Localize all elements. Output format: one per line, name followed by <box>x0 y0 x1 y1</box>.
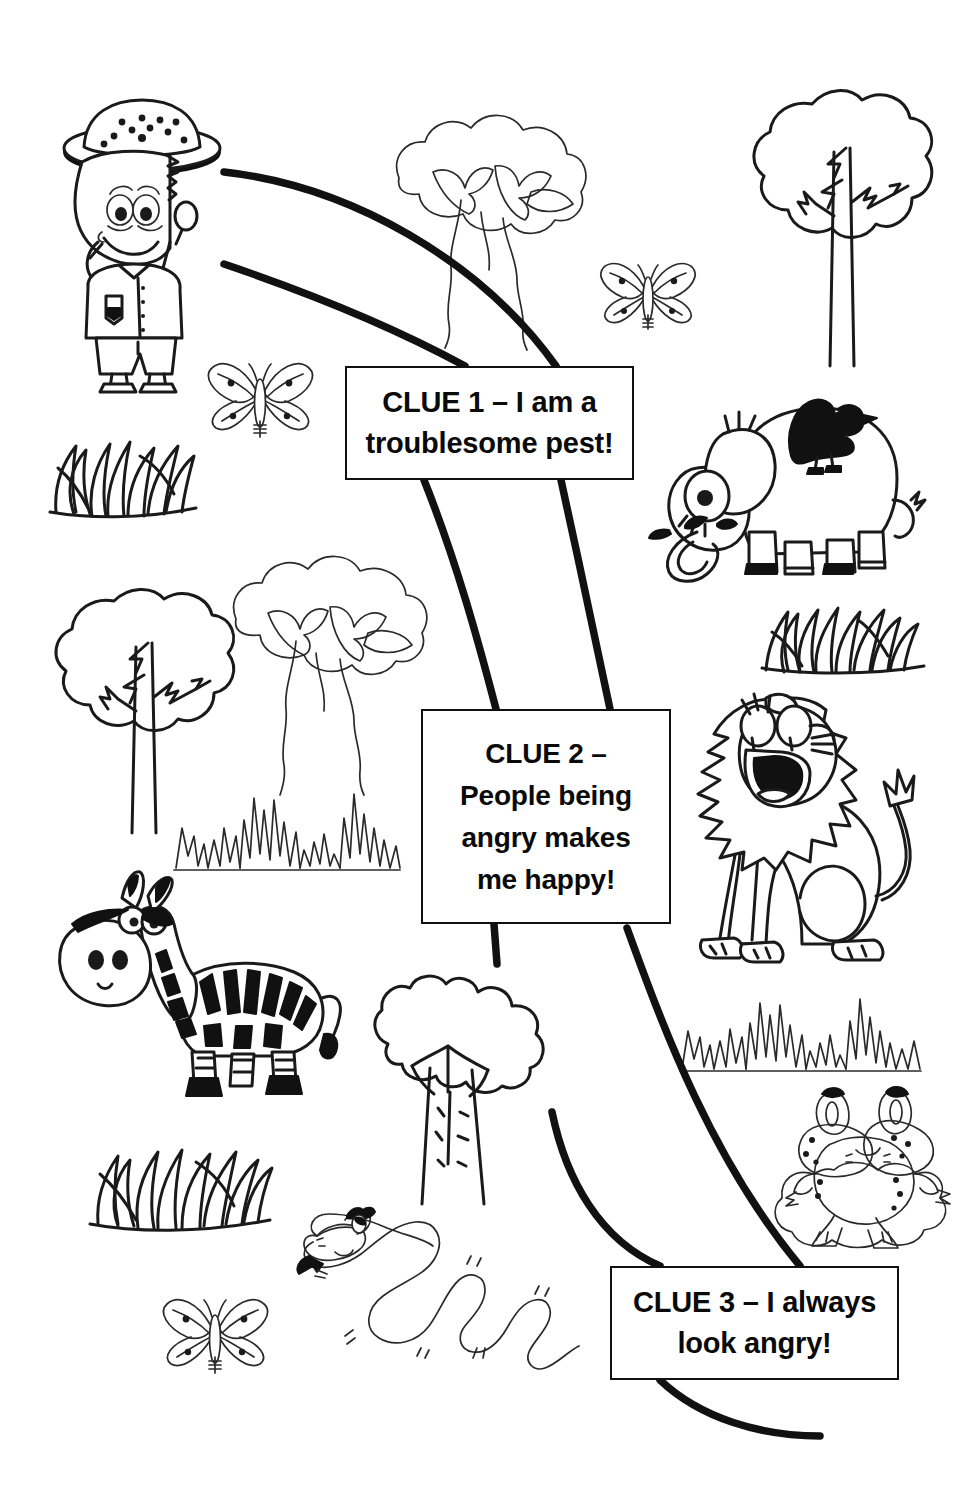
butterfly-icon <box>588 253 708 343</box>
clue-3-text: CLUE 3 – I always look angry! <box>633 1282 876 1364</box>
clue-box-1[interactable]: CLUE 1 – I am a troublesome pest! <box>345 366 634 480</box>
frog-icon <box>772 1082 967 1252</box>
acacia-tree-icon <box>222 545 437 795</box>
baobab-tree-icon <box>352 972 552 1207</box>
grass-tuft-spiky-icon <box>760 590 930 675</box>
grass-tuft-icon <box>84 1128 284 1238</box>
grass-tuft-spiky-icon <box>678 985 923 1075</box>
elephant-with-bird-icon <box>645 392 925 592</box>
round-tree-icon <box>742 82 942 367</box>
explorer-with-magnifying-glass-icon <box>42 92 242 392</box>
grass-tuft-spiky-icon <box>172 770 402 875</box>
acacia-tree-icon <box>385 100 595 350</box>
clue-box-3[interactable]: CLUE 3 – I always look angry! <box>610 1266 899 1380</box>
butterfly-icon <box>193 352 328 452</box>
snake-icon <box>295 1202 585 1377</box>
roaring-lion-icon <box>684 682 929 977</box>
clue-2-text: CLUE 2 – People being angry makes me hap… <box>460 733 632 901</box>
clue-box-2[interactable]: CLUE 2 – People being angry makes me hap… <box>421 709 671 924</box>
butterfly-icon <box>148 1288 283 1388</box>
grass-tuft-icon <box>44 420 209 525</box>
zebra-icon <box>44 862 344 1102</box>
clue-1-text: CLUE 1 – I am a troublesome pest! <box>366 382 614 464</box>
worksheet-page: CLUE 1 – I am a troublesome pest! CLUE 2… <box>0 0 976 1493</box>
